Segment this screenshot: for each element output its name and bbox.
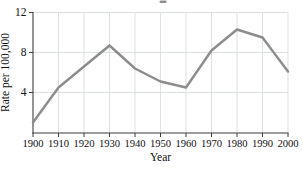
- x-tick-label: 1970: [201, 138, 222, 149]
- x-tick-label: 1900: [22, 138, 43, 149]
- x-axis-title: Year: [150, 151, 171, 163]
- x-tick-label: 1960: [175, 138, 196, 149]
- x-tick-label: 2000: [277, 138, 298, 149]
- y-tick-label: 8: [21, 46, 27, 58]
- x-tick-label: 1950: [150, 138, 171, 149]
- chart-area: 4812 19001910192019301940195019601970198…: [0, 0, 303, 170]
- x-tick-label: 1930: [99, 138, 120, 149]
- cropped-title-remnant: [160, 1, 167, 4]
- x-tick-label: 1980: [226, 138, 247, 149]
- rate-line-chart: 4812 19001910192019301940195019601970198…: [0, 0, 303, 170]
- y-axis-title: Rate per 100,000: [0, 33, 12, 112]
- gridlines: [33, 13, 288, 134]
- tick-marks: [29, 13, 288, 138]
- x-axis-tick-labels: 1900191019201930194019501960197019801990…: [22, 138, 298, 149]
- y-tick-label: 4: [21, 86, 27, 98]
- x-tick-label: 1940: [124, 138, 145, 149]
- y-tick-label: 12: [15, 6, 27, 18]
- y-axis-tick-labels: 4812: [15, 6, 27, 98]
- x-tick-label: 1990: [252, 138, 273, 149]
- x-tick-label: 1910: [48, 138, 69, 149]
- x-tick-label: 1920: [73, 138, 94, 149]
